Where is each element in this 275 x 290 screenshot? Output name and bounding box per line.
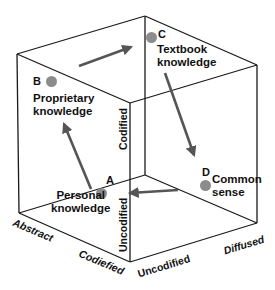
arrow-a-to-b	[64, 124, 91, 189]
axis-label-codified-vertical: Codified	[117, 108, 129, 150]
arrow-b-to-c	[79, 47, 131, 66]
point-a-letter: A	[106, 174, 114, 186]
cube-edges	[17, 16, 257, 262]
point-c-dot	[146, 32, 157, 43]
axis-label-uncodified-vertical: Uncodified	[117, 198, 129, 252]
point-b-dot	[46, 76, 57, 87]
point-d-dot	[200, 180, 211, 191]
point-c-label: Textbook knowledge	[157, 43, 216, 69]
point-b-letter: B	[33, 75, 41, 87]
arrow-d-to-a	[130, 190, 178, 193]
point-c-letter: C	[158, 28, 166, 40]
point-a-label: Personal knowledge	[51, 189, 110, 215]
point-d-letter: D	[202, 166, 210, 178]
point-d-label: Common sense	[212, 173, 262, 199]
point-b-label: Proprietary knowledge	[33, 92, 94, 118]
